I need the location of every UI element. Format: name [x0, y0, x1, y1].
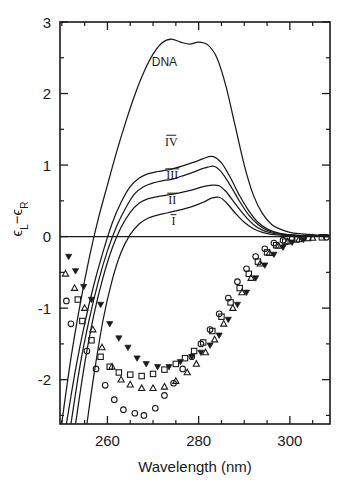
- scatter-marker-triangle-down: [125, 345, 131, 350]
- scatter-marker-triangle-up: [221, 321, 227, 327]
- scatter-marker-triangle-up: [139, 385, 145, 391]
- scatter-marker-triangle-down: [97, 302, 103, 307]
- y-axis-title-text: ϵL−ϵR: [8, 202, 30, 237]
- scatter-marker-square: [116, 370, 121, 375]
- scatter-marker-triangle-up: [62, 270, 68, 276]
- scatter-marker-triangle-up: [150, 385, 156, 391]
- scatter-marker-triangle-down: [134, 356, 140, 361]
- scatter-marker-triangle-up: [230, 305, 236, 311]
- y-tick-label: -1: [38, 300, 51, 317]
- scatter-marker-triangle-down: [155, 364, 161, 369]
- scatter-marker-square: [162, 367, 167, 372]
- scatter-marker-circle: [132, 410, 138, 416]
- y-tick-label: 0: [43, 228, 51, 245]
- y-tick-label: 2: [43, 85, 51, 102]
- scatter-marker-circle: [141, 413, 147, 419]
- scatter-marker-triangle-up: [212, 336, 218, 342]
- scatter-marker-triangle-up: [71, 285, 77, 291]
- spectrum-curve-iii: [71, 166, 329, 424]
- scatter-marker-triangle-down: [66, 254, 72, 259]
- scatter-marker-triangle-up: [127, 381, 133, 387]
- curve-label-dna: DNA: [152, 55, 177, 69]
- curve-label-ii: II: [168, 193, 176, 207]
- y-tick-label: 1: [43, 157, 51, 174]
- scatter-marker-triangle-up: [161, 384, 167, 390]
- scatter-marker-circle: [68, 321, 74, 327]
- scatter-marker-square: [191, 348, 196, 353]
- scatter-marker-triangle-up: [90, 326, 96, 332]
- scatter-marker-triangle-up: [193, 361, 199, 367]
- scatter-marker-triangle-up: [118, 376, 124, 382]
- scatter-marker-circle: [153, 405, 159, 411]
- scatter-marker-circle: [64, 298, 70, 304]
- scatter-marker-triangle-up: [99, 344, 105, 350]
- spectrum-curve-dna: [62, 39, 329, 422]
- scatter-marker-triangle-down: [207, 343, 213, 348]
- scatter-marker-triangle-down: [225, 317, 231, 322]
- scatter-marker-triangle-down: [143, 362, 149, 367]
- scatter-marker-square: [150, 371, 155, 376]
- y-tick-label: -2: [38, 371, 51, 388]
- x-tick-label: 280: [186, 432, 211, 449]
- scatter-marker-square: [98, 354, 103, 359]
- scatter-marker-circle: [102, 383, 108, 389]
- scatter-marker-circle: [121, 407, 127, 413]
- plot-canvas: 260280300-2-10123DNAIVIIIIIIWavelength (…: [0, 0, 350, 486]
- x-tick-label: 260: [95, 432, 120, 449]
- scatter-marker-triangle-down: [72, 269, 78, 274]
- scatter-marker-triangle-down: [107, 322, 113, 327]
- scatter-marker-circle: [162, 393, 168, 399]
- spectrum-curve-i: [87, 197, 329, 424]
- scatter-marker-square: [128, 372, 133, 377]
- y-tick-label: 3: [43, 14, 51, 31]
- curve-label-iv: IV: [165, 135, 178, 149]
- curve-label-i: I: [172, 214, 176, 228]
- scatter-marker-circle: [93, 366, 99, 372]
- scatter-marker-triangle-down: [216, 333, 222, 338]
- scatter-marker-triangle-down: [81, 284, 87, 289]
- scatter-marker-circle: [180, 366, 186, 372]
- scatter-marker-square: [173, 361, 178, 366]
- scatter-marker-square: [75, 297, 80, 302]
- scatter-marker-circle: [111, 397, 117, 403]
- y-axis-title: ϵL−ϵR: [8, 202, 30, 237]
- scatter-marker-triangle-down: [234, 302, 240, 307]
- scatter-marker-square: [139, 373, 144, 378]
- x-axis-title: Wavelength (nm): [138, 458, 252, 475]
- x-tick-label: 300: [277, 432, 302, 449]
- curve-label-iii: III: [166, 168, 178, 182]
- cd-spectrum-figure: 260280300-2-10123DNAIVIIIIIIWavelength (…: [0, 0, 350, 486]
- scatter-marker-triangle-up: [82, 305, 88, 311]
- spectrum-curve-iv: [66, 156, 328, 424]
- scatter-marker-triangle-down: [116, 336, 122, 341]
- scatter-marker-circle: [235, 279, 241, 285]
